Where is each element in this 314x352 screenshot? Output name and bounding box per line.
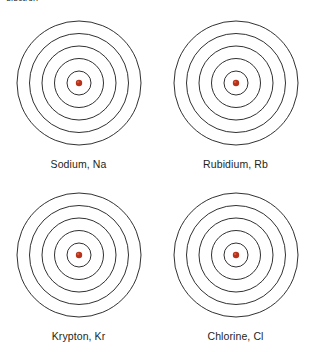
nucleus-icon bbox=[232, 80, 238, 86]
clipped-header-text: electron bbox=[6, 0, 146, 3]
bohr-diagram-krypton-svg bbox=[6, 182, 152, 328]
atom-cell-chlorine: Chlorine, Cl bbox=[157, 180, 314, 352]
atom-label-krypton: Krypton, Kr bbox=[52, 330, 106, 343]
atom-diagram-grid: Sodium, Na Rubidium, Rb bbox=[0, 8, 314, 352]
atom-cell-sodium: Sodium, Na bbox=[0, 8, 157, 180]
nucleus-highlight bbox=[233, 81, 236, 84]
bohr-diagram-rubidium-svg bbox=[163, 10, 309, 156]
bohr-diagram-sodium-svg bbox=[6, 10, 152, 156]
bohr-diagram-sodium bbox=[6, 10, 152, 156]
bohr-diagram-krypton bbox=[6, 182, 152, 328]
nucleus-highlight bbox=[233, 253, 236, 256]
atom-diagram-page: electron Sodium, Na bbox=[0, 0, 314, 352]
atom-cell-rubidium: Rubidium, Rb bbox=[157, 8, 314, 180]
bohr-diagram-rubidium bbox=[163, 10, 309, 156]
nucleus-icon bbox=[232, 252, 238, 258]
atom-cell-krypton: Krypton, Kr bbox=[0, 180, 157, 352]
nucleus-icon bbox=[75, 80, 81, 86]
bohr-diagram-chlorine-svg bbox=[163, 182, 309, 328]
atom-label-rubidium: Rubidium, Rb bbox=[203, 158, 268, 171]
clipped-header-label: electron bbox=[6, 0, 146, 3]
bohr-diagram-chlorine bbox=[163, 182, 309, 328]
atom-label-sodium: Sodium, Na bbox=[51, 158, 107, 171]
nucleus-highlight bbox=[76, 81, 79, 84]
nucleus-icon bbox=[75, 252, 81, 258]
atom-label-chlorine: Chlorine, Cl bbox=[207, 330, 263, 343]
nucleus-highlight bbox=[76, 253, 79, 256]
